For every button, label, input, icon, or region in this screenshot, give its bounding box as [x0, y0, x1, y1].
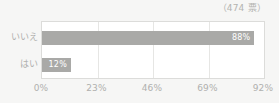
x-tick-label-2: 46% [142, 82, 163, 94]
bar-value-label-hai: 12% [49, 58, 71, 72]
bar-value-label-iie: 88% [232, 31, 254, 45]
category-label-iie: いいえ [0, 31, 38, 43]
bar-iie[interactable]: 88% [42, 31, 254, 45]
total-votes-caption: （474 票） [218, 2, 266, 14]
bar-hai[interactable]: 12% [42, 58, 71, 72]
x-tick-label-1: 23% [86, 82, 107, 94]
x-axis: 0% 23% 46% 69% 92% [0, 82, 279, 96]
x-tick-label-0: 0% [34, 82, 49, 94]
category-label-hai: はい [0, 58, 38, 70]
poll-result-bar-chart: （474 票） いいえ はい 88% 12% 0% 23% 46% 69% 92… [0, 0, 279, 103]
x-tick-label-4: 92% [253, 82, 274, 94]
plot-area: 88% 12% [41, 21, 265, 79]
x-tick-label-3: 69% [197, 82, 218, 94]
